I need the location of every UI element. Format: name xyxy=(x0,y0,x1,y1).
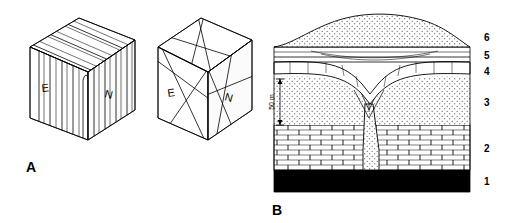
panel-a-svg: E N xyxy=(0,0,266,223)
panel-a: E N xyxy=(0,0,266,223)
unit-5-laminated xyxy=(274,47,470,62)
panel-b-svg: 50 m 6 5 4 3 2 1 B xyxy=(266,0,512,223)
block-right: E N xyxy=(152,8,262,160)
unit-number-2: 2 xyxy=(484,143,490,154)
unit-1-black xyxy=(274,170,470,192)
scale-bar-label: 50 m xyxy=(268,94,275,110)
panel-a-letter: A xyxy=(26,159,36,175)
geological-figure: E N xyxy=(0,0,512,223)
unit-number-4: 4 xyxy=(484,66,490,77)
unit-6-dome xyxy=(274,14,470,47)
unit-number-6: 6 xyxy=(484,32,490,43)
unit-number-5: 5 xyxy=(484,50,490,61)
block-left: E N xyxy=(18,10,154,160)
panel-b: 50 m 6 5 4 3 2 1 B xyxy=(266,0,512,223)
block-left-face-label-e: E xyxy=(41,81,50,94)
panel-b-letter: B xyxy=(272,202,282,218)
unit-number-3: 3 xyxy=(484,97,490,108)
unit-number-1: 1 xyxy=(484,176,490,187)
